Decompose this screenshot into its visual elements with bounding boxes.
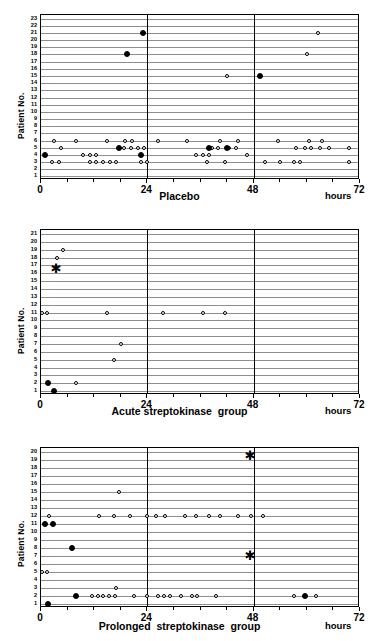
gridline [41,176,358,177]
gridline [41,564,358,565]
plot-area [40,14,359,179]
x-tick-mark [359,394,360,398]
y-tick-label: 7 [23,129,37,135]
data-point-open [305,52,309,56]
data-point-open [205,160,209,164]
gridline [41,508,358,509]
x-tick-mark [253,607,254,611]
x-minor-tick [200,394,201,397]
y-tick-label: 6 [23,137,37,143]
gridline [41,492,358,493]
gridline [41,250,358,251]
vertical-reference-line [254,448,255,606]
x-axis-unit-label: hours [325,405,351,416]
data-point-open [318,146,322,150]
y-tick-label: 20 [23,238,37,244]
x-minor-tick [332,607,333,610]
x-minor-tick [200,607,201,610]
gridline [41,119,358,120]
y-tick-label: 17 [23,261,37,267]
gridline [41,328,358,329]
y-tick-label: 21 [23,230,37,236]
gridline [41,604,358,605]
x-minor-tick [306,607,307,610]
vertical-reference-line [254,230,255,393]
x-minor-tick [93,394,94,397]
gridline [41,596,358,597]
x-minor-tick [306,394,307,397]
data-point-filled [138,152,144,158]
x-tick-mark [40,394,41,398]
y-tick-label: 13 [23,293,37,299]
data-point-filled [45,380,51,386]
y-tick-label: 18 [23,50,37,56]
gridline [41,548,358,549]
data-point-filled [51,388,57,394]
gridline [41,33,358,34]
y-tick-label: 17 [23,472,37,478]
data-point-open [114,160,118,164]
gridline [41,375,358,376]
gridline [41,90,358,91]
data-point-open [132,594,136,598]
data-point-open [90,594,94,598]
three-panel-scatter-figure: Patient No.12345678910111213141516171819… [0,0,386,641]
data-point-open [218,514,222,518]
data-point-open [145,514,149,518]
data-point-open [113,594,117,598]
gridline [41,105,358,106]
data-point-open [52,139,56,143]
y-tick-label: 4 [23,576,37,582]
x-axis-unit-label: hours [325,620,351,631]
x-minor-tick [67,607,68,610]
panel-caption: Placebo [0,190,359,202]
y-tick-label: 9 [23,115,37,121]
data-point-open [278,160,282,164]
data-point-open [40,311,44,315]
gridline [41,112,358,113]
data-point-open [320,139,324,143]
data-point-open [195,594,199,598]
y-tick-label: 2 [23,592,37,598]
data-point-open [45,570,49,574]
gridline [41,54,358,55]
data-point-open [97,514,101,518]
data-point-filled [224,145,230,151]
gridline [41,281,358,282]
data-point-open [347,160,351,164]
data-point-open [185,139,189,143]
y-tick-label: 10 [23,108,37,114]
data-point-filled [69,545,75,551]
data-point-open [309,146,313,150]
vertical-reference-line [147,15,148,178]
data-point-open [245,153,249,157]
data-point-open [112,514,116,518]
data-point-open [117,490,121,494]
data-point-open [303,146,307,150]
data-point-asterisk: ✱ [245,549,256,562]
data-point-open [130,139,134,143]
plot-area: ✱ [40,229,359,394]
gridline [41,83,358,84]
x-minor-tick [173,394,174,397]
vertical-reference-line [254,15,255,178]
data-point-filled [124,51,130,57]
gridline [41,556,358,557]
gridline [41,297,358,298]
gridline [41,69,358,70]
data-point-open [145,594,149,598]
y-tick-label: 3 [23,158,37,164]
x-minor-tick [67,394,68,397]
y-tick-label: 5 [23,568,37,574]
x-tick-mark [40,607,41,611]
data-point-open [190,594,194,598]
y-tick-label: 8 [23,544,37,550]
data-point-open [40,570,44,574]
data-point-open [128,514,132,518]
gridline [41,540,358,541]
gridline [41,352,358,353]
data-point-open [298,160,302,164]
data-point-open [55,256,59,260]
y-tick-label: 5 [23,144,37,150]
data-point-open [101,160,105,164]
